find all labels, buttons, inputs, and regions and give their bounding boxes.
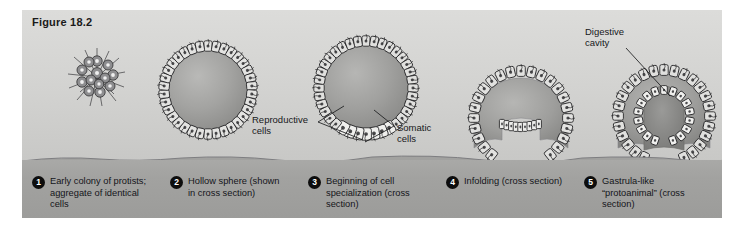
colony-cluster bbox=[68, 48, 125, 106]
caption-stage-1: 1 Early colony of protists; aggregate of… bbox=[32, 176, 150, 211]
label-reproductive-cells: Reproductive cells bbox=[252, 114, 316, 136]
stage-badge-5: 5 bbox=[584, 176, 597, 189]
caption-text-1: Early colony of protists; aggregate of i… bbox=[50, 176, 150, 211]
label-somatic-cells: Somatic cells bbox=[397, 122, 445, 144]
stage-badge-4: 4 bbox=[446, 176, 459, 189]
caption-stage-5: 5 Gastrula-like “protoanimal” (cross sec… bbox=[584, 176, 702, 211]
illustration-scene: Figure 18.2 bbox=[22, 10, 722, 160]
stage-5-gastrula bbox=[600, 48, 722, 166]
figure-title: Figure 18.2 bbox=[32, 16, 92, 28]
caption-stage-3: 3 Beginning of cell specialization (cros… bbox=[308, 176, 426, 211]
stage-badge-2: 2 bbox=[170, 176, 183, 189]
caption-text-5: Gastrula-like “protoanimal” (cross secti… bbox=[602, 176, 702, 211]
stage-badge-1: 1 bbox=[32, 176, 45, 189]
figure-panel: Figure 18.2 bbox=[22, 10, 722, 218]
caption-stage-2: 2 Hollow sphere (shown in cross section) bbox=[170, 176, 288, 199]
caption-text-4: Infolding (cross section) bbox=[464, 176, 564, 188]
caption-text-3: Beginning of cell specialization (cross … bbox=[326, 176, 426, 211]
stage-1-early-colony bbox=[62, 42, 132, 112]
caption-stage-4: 4 Infolding (cross section) bbox=[446, 176, 564, 188]
caption-text-2: Hollow sphere (shown in cross section) bbox=[188, 176, 288, 199]
stage-4-infolding bbox=[454, 52, 588, 164]
stage-badge-3: 3 bbox=[308, 176, 321, 189]
label-digestive-cavity: Digestive cavity bbox=[585, 26, 643, 48]
caption-band: 1 Early colony of protists; aggregate of… bbox=[22, 160, 722, 218]
